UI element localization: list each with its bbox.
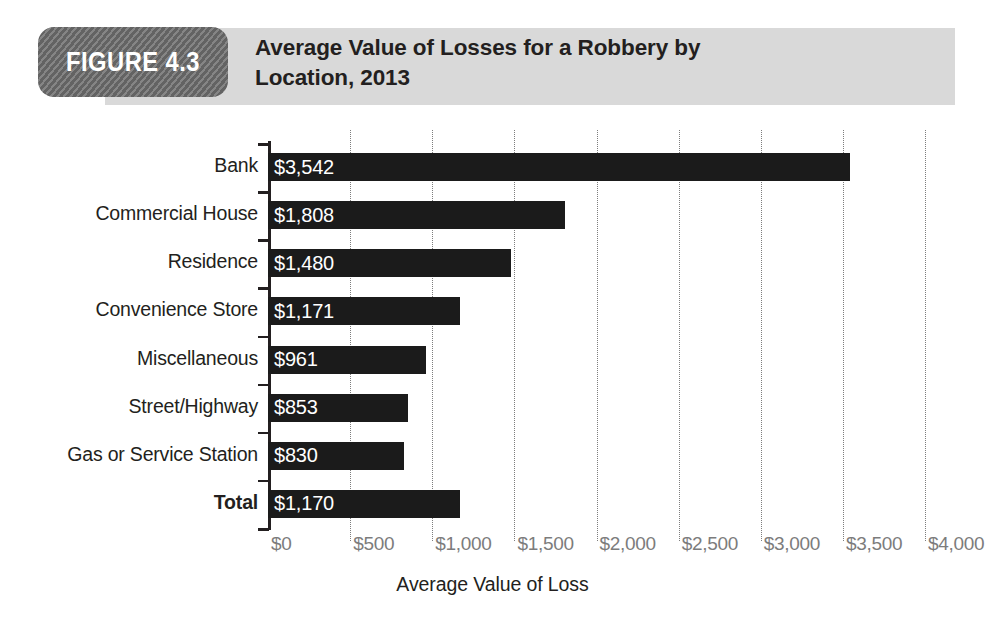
bar-row: $853 [268, 384, 925, 432]
bar-value-label: $853 [268, 396, 318, 419]
x-axis-tick-label: $2,000 [600, 533, 656, 555]
x-axis-tick-label: $1,000 [435, 533, 491, 555]
bar: $1,480 [268, 249, 511, 277]
category-label: Commercial House [0, 202, 258, 225]
bar-chart: $3,542$1,808$1,480$1,171$961$853$830$1,1… [0, 0, 985, 620]
gridline [925, 130, 926, 541]
category-label: Convenience Store [0, 298, 258, 321]
bar: $1,171 [268, 297, 460, 325]
x-axis-tick-label: $0 [271, 533, 292, 555]
bar: $961 [268, 346, 426, 374]
bar-row: $1,480 [268, 239, 925, 287]
bar-row: $961 [268, 336, 925, 384]
bar-row: $3,542 [268, 143, 925, 191]
category-label: Miscellaneous [0, 347, 258, 370]
x-axis-tick-label: $500 [353, 533, 394, 555]
bar-row: $1,171 [268, 287, 925, 335]
bar: $830 [268, 442, 404, 470]
category-label: Residence [0, 250, 258, 273]
bar-value-label: $1,170 [268, 492, 334, 515]
x-axis-title: Average Value of Loss [0, 573, 985, 596]
x-axis-tick-label: $2,500 [682, 533, 738, 555]
bar-value-label: $1,808 [268, 204, 334, 227]
bar-row: $830 [268, 432, 925, 480]
y-axis-tick [258, 528, 269, 531]
bar-value-label: $830 [268, 444, 318, 467]
bar-value-label: $1,171 [268, 300, 334, 323]
bar: $1,808 [268, 201, 565, 229]
x-axis-tick-label: $4,000 [928, 533, 984, 555]
bar-row: $1,808 [268, 191, 925, 239]
bar-value-label: $961 [268, 348, 318, 371]
bar: $853 [268, 394, 408, 422]
x-axis-tick-label: $1,500 [517, 533, 573, 555]
bar-row: $1,170 [268, 480, 925, 528]
x-axis-tick-label: $3,500 [846, 533, 902, 555]
bar: $3,542 [268, 153, 850, 181]
bar: $1,170 [268, 490, 460, 518]
category-label: Street/Highway [0, 395, 258, 418]
category-label: Gas or Service Station [0, 443, 258, 466]
bar-value-label: $3,542 [268, 156, 334, 179]
x-axis-tick-label: $3,000 [764, 533, 820, 555]
category-label: Bank [0, 154, 258, 177]
category-label: Total [0, 491, 258, 514]
bar-value-label: $1,480 [268, 252, 334, 275]
